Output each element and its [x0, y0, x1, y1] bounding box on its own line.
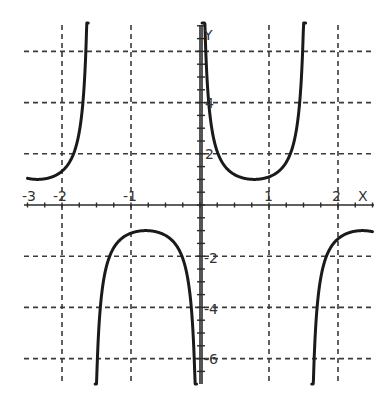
curve-branch-middle-upper	[202, 23, 306, 179]
x-tick-label-neg3: -3	[22, 188, 36, 204]
y-tick-label-neg2: -2	[204, 250, 218, 266]
x-tick-label-1: 1	[264, 188, 273, 204]
y-tick-label-neg6: -6	[204, 351, 218, 367]
x-tick-label-neg2: -2	[53, 188, 67, 204]
x-tick-label-2: 2	[332, 188, 341, 204]
x-axis-label: X	[358, 188, 368, 204]
y-tick-label-4: 4	[205, 95, 214, 111]
function-plot: -3 -2 -1 1 2 X Y 4 2 -2 -4 -6	[0, 0, 391, 403]
y-axis-label: Y	[203, 27, 213, 43]
y-tick-label-neg4: -4	[204, 301, 218, 317]
x-tick-label-neg1: -1	[123, 188, 137, 204]
y-tick-label-2: 2	[205, 146, 214, 162]
curve-branch-left-upper	[28, 23, 89, 179]
